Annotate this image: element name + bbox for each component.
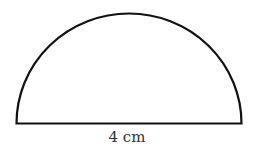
diameter-label: 4 cm [0, 128, 254, 146]
semicircle-outline [17, 14, 242, 124]
